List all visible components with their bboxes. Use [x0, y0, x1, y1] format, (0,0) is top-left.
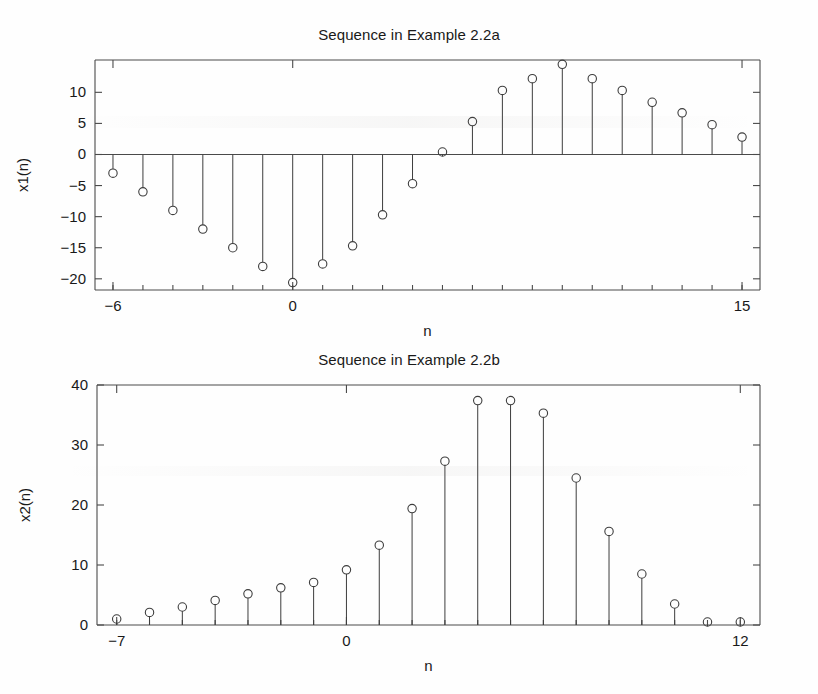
stem-marker: [468, 117, 476, 125]
figure-1: Sequence in Example 2.2a −60151050−5−10−…: [0, 0, 818, 348]
stem-marker: [498, 86, 506, 94]
y-tick-label: 10: [69, 83, 86, 100]
stem-marker: [605, 527, 613, 535]
stem-marker: [309, 578, 317, 586]
x-tick-label: 0: [289, 297, 297, 314]
stem-marker: [277, 584, 285, 592]
stem-marker: [408, 180, 416, 188]
plot-2-canvas: −7012010203040nx2(n): [0, 340, 818, 694]
y-tick-label: −5: [69, 177, 86, 194]
y-axis-label: x2(n): [16, 488, 33, 522]
y-tick-label: 30: [71, 436, 88, 453]
stem-marker: [638, 570, 646, 578]
stem-marker: [708, 120, 716, 128]
y-tick-label: −20: [61, 270, 86, 287]
stem-marker: [738, 133, 746, 141]
stem-marker: [318, 260, 326, 268]
stem-marker: [229, 244, 237, 252]
stem-marker: [670, 600, 678, 608]
y-tick-label: 20: [71, 496, 88, 513]
x-tick-label: 12: [732, 632, 749, 649]
x-tick-label: 0: [342, 632, 350, 649]
stem-marker: [169, 206, 177, 214]
y-tick-label: 0: [80, 616, 88, 633]
y-axis-label: x1(n): [14, 158, 31, 192]
stem-marker: [558, 60, 566, 68]
x-tick-label: −6: [104, 297, 121, 314]
stem-marker: [572, 474, 580, 482]
y-tick-label: 40: [71, 376, 88, 393]
stem-marker: [441, 457, 449, 465]
stem-marker: [474, 396, 482, 404]
stem-marker: [145, 608, 153, 616]
stem-marker: [139, 188, 147, 196]
stem-marker: [259, 262, 267, 270]
y-tick-label: 0: [78, 145, 86, 162]
stem-marker: [678, 109, 686, 117]
x-tick-label: −7: [108, 632, 125, 649]
stem-marker: [211, 596, 219, 604]
stem-marker: [618, 86, 626, 94]
stem-marker: [539, 409, 547, 417]
y-tick-label: −15: [61, 239, 86, 256]
x-axis-label: n: [424, 657, 432, 674]
figure-page: Sequence in Example 2.2a −60151050−5−10−…: [0, 0, 818, 694]
y-tick-label: 10: [71, 556, 88, 573]
stem-marker: [109, 169, 117, 177]
plot-1-title: Sequence in Example 2.2a: [0, 26, 818, 43]
y-tick-label: −10: [61, 208, 86, 225]
stem-marker: [375, 541, 383, 549]
stem-marker: [244, 590, 252, 598]
stem-marker: [408, 504, 416, 512]
stem-marker: [199, 225, 207, 233]
x-axis-label: n: [423, 322, 431, 339]
stem-marker: [178, 603, 186, 611]
figure-2: Sequence in Example 2.2b −7012010203040n…: [0, 340, 818, 694]
stem-marker: [342, 566, 350, 574]
plot-area: −60151050−5−10−15−20nx1(n): [14, 60, 760, 339]
stem-marker: [528, 74, 536, 82]
stem-marker: [648, 98, 656, 106]
stem-marker: [378, 211, 386, 219]
y-tick-label: 5: [78, 114, 86, 131]
stem-marker: [506, 396, 514, 404]
x-tick-label: 15: [734, 297, 751, 314]
stem-marker: [348, 242, 356, 250]
stem-marker: [588, 74, 596, 82]
plot-2-title: Sequence in Example 2.2b: [0, 351, 818, 368]
plot-1-canvas: −60151050−5−10−15−20nx1(n): [0, 0, 818, 348]
plot-area: −7012010203040nx2(n): [16, 376, 760, 674]
